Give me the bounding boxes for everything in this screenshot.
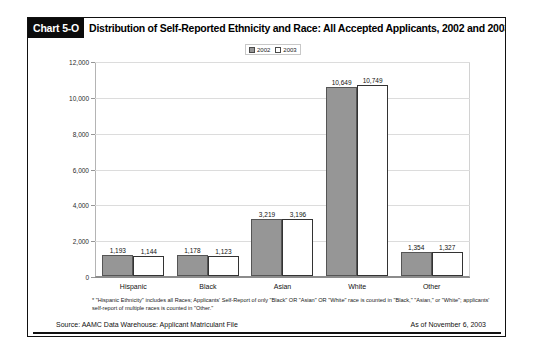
y-axis-label: 12,000 xyxy=(69,59,95,66)
legend-label-2003: 2003 xyxy=(283,47,296,53)
as-of-text: As of November 6, 2003 xyxy=(411,321,487,328)
chart-header: Chart 5-O Distribution of Self-Reported … xyxy=(28,18,505,38)
page-title: Distribution of Self-Reported Ethnicity … xyxy=(84,18,505,38)
bar-group: 1,3541,327Other xyxy=(394,63,469,276)
bar-value-label: 10,749 xyxy=(363,77,383,84)
y-axis-label: 4,000 xyxy=(73,202,95,209)
bar-groups: 1,1931,144Hispanic1,1781,123Black3,2193,… xyxy=(96,63,469,276)
bar-value-label: 1,123 xyxy=(215,248,231,255)
chart-number-badge: Chart 5-O xyxy=(28,18,84,38)
legend-swatch-2003 xyxy=(275,47,281,53)
y-axis-label: 8,000 xyxy=(73,130,95,137)
legend-swatch-2002 xyxy=(249,47,255,53)
bar-value-label: 3,219 xyxy=(259,211,275,218)
legend-label-2002: 2002 xyxy=(257,47,270,53)
bar-value-label: 1,178 xyxy=(184,247,200,254)
bar-value-label: 10,649 xyxy=(332,79,352,86)
bar-value-label: 1,193 xyxy=(110,247,126,254)
bar-other-2002: 1,354 xyxy=(401,252,432,276)
legend-item-2003: 2003 xyxy=(275,47,296,53)
bar-group: 10,64910,749White xyxy=(320,63,395,276)
y-axis-label: 6,000 xyxy=(73,166,95,173)
bar-group: 1,1781,123Black xyxy=(171,63,246,276)
source-row: Source: AAMC Data Warehouse: Applicant M… xyxy=(56,321,486,328)
bar-white-2002: 10,649 xyxy=(326,87,357,276)
bar-value-label: 1,327 xyxy=(439,244,455,251)
footnote-text: * "Hispanic Ethnicity" includes all Race… xyxy=(92,296,492,312)
y-axis-label: 10,000 xyxy=(69,94,95,101)
source-text: Source: AAMC Data Warehouse: Applicant M… xyxy=(56,321,238,328)
plot-wrapper: 02,0004,0006,0008,00010,00012,000 1,1931… xyxy=(95,62,470,277)
bar-value-label: 1,354 xyxy=(408,244,424,251)
bar-group: 3,2193,196Asian xyxy=(245,63,320,276)
chart-legend: 2002 2003 xyxy=(245,44,301,55)
x-axis-label: Other xyxy=(394,283,469,290)
bar-white-2003: 10,749 xyxy=(357,85,388,276)
legend-item-2002: 2002 xyxy=(249,47,270,53)
bar-black-2002: 1,178 xyxy=(177,255,208,276)
chart-page: Chart 5-O Distribution of Self-Reported … xyxy=(0,0,533,353)
bar-hispanic-2002: 1,193 xyxy=(102,255,133,276)
x-axis-label: Asian xyxy=(245,283,320,290)
bar-other-2003: 1,327 xyxy=(432,252,463,276)
bar-asian-2002: 3,219 xyxy=(251,219,282,276)
x-axis-label: Black xyxy=(171,283,246,290)
y-axis-label: 0 xyxy=(85,274,95,281)
bottom-divider xyxy=(33,332,501,334)
x-axis-label: Hispanic xyxy=(96,283,171,290)
bar-hispanic-2003: 1,144 xyxy=(133,256,164,276)
x-axis-label: White xyxy=(320,283,395,290)
bar-black-2003: 1,123 xyxy=(208,256,239,276)
bar-value-label: 1,144 xyxy=(141,248,157,255)
bar-value-label: 3,196 xyxy=(290,211,306,218)
bar-group: 1,1931,144Hispanic xyxy=(96,63,171,276)
gridline xyxy=(95,277,470,278)
y-axis-label: 2,000 xyxy=(73,238,95,245)
bar-asian-2003: 3,196 xyxy=(282,219,313,276)
